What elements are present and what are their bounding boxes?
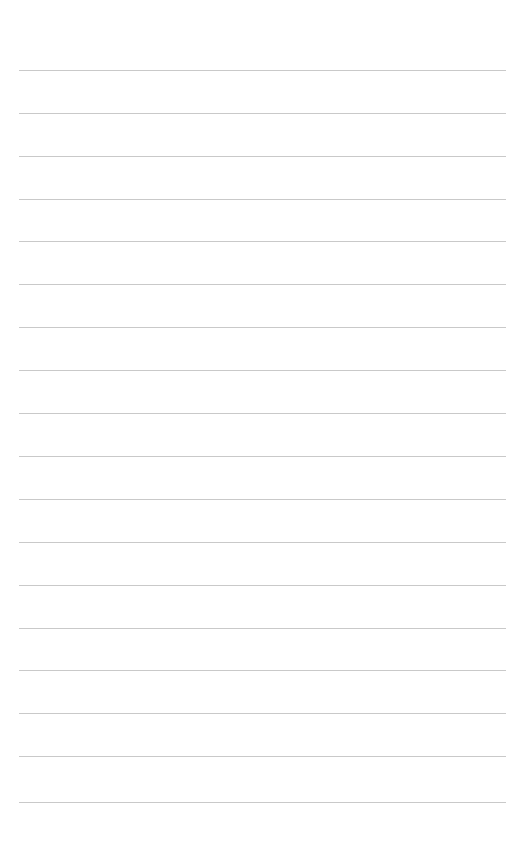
writing-area[interactable] (0, 0, 527, 849)
page-header-blank-area (0, 0, 527, 70)
ruled-paper-page (0, 0, 527, 849)
